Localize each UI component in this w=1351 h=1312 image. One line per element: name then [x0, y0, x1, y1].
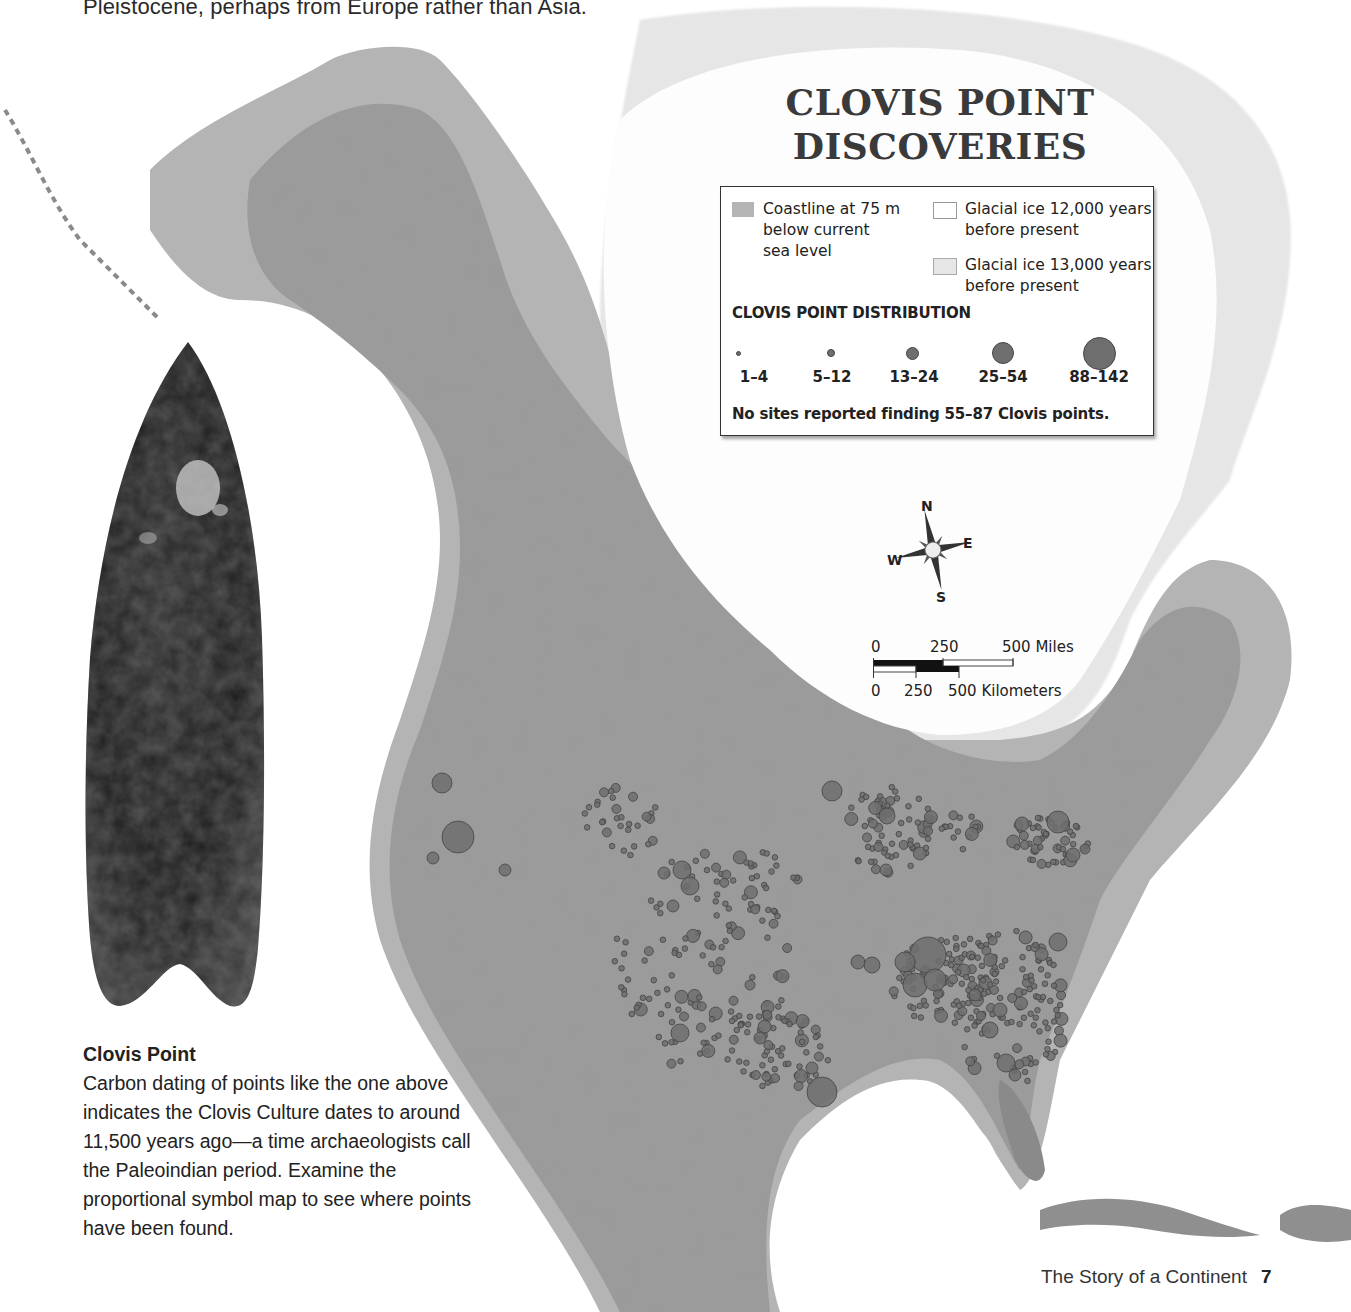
clovis-site-symbol	[798, 1030, 804, 1036]
symbol-dot-13-24	[906, 347, 919, 360]
clovis-site-symbol	[726, 923, 732, 929]
clovis-site-symbol	[716, 1033, 722, 1039]
distribution-note: No sites reported finding 55–87 Clovis p…	[732, 405, 1109, 423]
clovis-site-symbol	[696, 1023, 705, 1032]
clovis-site-symbol	[658, 867, 670, 879]
clovis-site-symbol	[787, 1021, 793, 1027]
clovis-site-symbol	[934, 998, 940, 1004]
clovis-site-symbol	[961, 942, 967, 948]
clovis-site-symbol	[744, 1060, 750, 1066]
clovis-site-symbol	[709, 961, 715, 967]
clovis-site-symbol	[1051, 1019, 1057, 1025]
clovis-site-symbol	[748, 861, 754, 867]
intro-text: Pleistocene, perhaps from Europe rather …	[83, 0, 587, 20]
clovis-site-symbol	[669, 973, 675, 979]
page-footer: The Story of a Continent7	[1041, 1266, 1272, 1288]
clovis-site-symbol	[1028, 1011, 1034, 1017]
clovis-site-symbol	[993, 1003, 1007, 1017]
clovis-site-symbol	[885, 853, 891, 859]
clovis-site-symbol	[738, 1022, 744, 1028]
clovis-site-symbol	[1029, 978, 1035, 984]
clovis-site-symbol	[729, 1048, 735, 1054]
clovis-site-symbol	[610, 795, 616, 801]
clovis-site-symbol	[966, 1057, 975, 1066]
clovis-site-symbol	[700, 953, 706, 959]
clovis-site-symbol	[880, 864, 892, 876]
clovis-site-symbol	[736, 1059, 742, 1065]
compass-e-label: E	[963, 535, 973, 551]
scale-km-0: 0	[871, 682, 881, 700]
clovis-site-symbol	[736, 1013, 742, 1019]
clovis-site-symbol	[609, 843, 615, 849]
range-label-5-12: 5–12	[792, 368, 872, 386]
clovis-site-symbol	[1038, 844, 1044, 850]
clovis-site-symbol	[619, 984, 625, 990]
clovis-site-symbol	[1049, 933, 1067, 951]
clovis-site-symbol	[669, 1019, 675, 1025]
clovis-site-symbol	[868, 859, 874, 865]
clovis-site-symbol	[1051, 859, 1057, 865]
clovis-site-symbol	[766, 907, 772, 913]
clovis-site-symbol	[1038, 967, 1044, 973]
clovis-site-symbol	[658, 901, 664, 907]
clovis-site-symbol	[635, 823, 641, 829]
clovis-site-symbol	[1015, 1060, 1024, 1069]
clovis-site-symbol	[965, 1000, 971, 1006]
clovis-site-symbol	[722, 870, 731, 879]
clovis-site-symbol	[658, 1011, 664, 1017]
clovis-site-symbol	[1014, 928, 1020, 934]
compass-w-label: W	[887, 552, 902, 568]
clovis-site-symbol	[599, 819, 605, 825]
clovis-site-symbol	[1021, 989, 1027, 995]
clovis-site-symbol	[697, 995, 703, 1001]
clovis-site-symbol	[952, 1020, 958, 1026]
clovis-site-symbol	[791, 875, 797, 881]
clovis-site-symbol	[915, 820, 921, 826]
clovis-site-symbol	[614, 936, 620, 942]
clovis-site-symbol	[908, 842, 914, 848]
clovis-site-symbol	[972, 1023, 978, 1029]
clovis-site-symbol	[1009, 1019, 1015, 1025]
clovis-site-symbol	[1033, 942, 1039, 948]
scale-miles-0: 0	[871, 638, 881, 656]
clovis-site-symbol	[892, 789, 898, 795]
clovis-site-symbol	[856, 858, 862, 864]
clovis-site-symbol	[1043, 831, 1049, 837]
clovis-site-symbol	[1030, 825, 1036, 831]
clovis-site-symbol	[779, 1046, 785, 1052]
clovis-site-symbol	[899, 840, 908, 849]
clovis-site-symbol	[1054, 1007, 1060, 1013]
clovis-site-symbol	[865, 844, 871, 850]
clovis-site-symbol	[665, 1002, 671, 1008]
clovis-site-symbol	[863, 833, 872, 842]
clovis-site-symbol	[1023, 974, 1029, 980]
clovis-site-symbol	[796, 1015, 809, 1028]
clovis-site-symbol	[778, 1053, 784, 1059]
clovis-site-symbol	[1019, 931, 1032, 944]
clovis-site-symbol	[608, 788, 614, 794]
clovis-site-symbol	[764, 1041, 773, 1050]
clovis-site-symbol	[729, 1018, 735, 1024]
clovis-site-symbol	[948, 962, 954, 968]
clovis-site-symbol	[1037, 859, 1046, 868]
clovis-site-symbol	[783, 944, 792, 953]
clovis-site-symbol	[623, 939, 629, 945]
map-legend: Coastline at 75 m below current sea leve…	[720, 186, 1154, 436]
clovis-site-symbol	[664, 987, 670, 993]
compass-s-label: S	[936, 589, 946, 605]
clovis-site-symbol	[879, 808, 895, 824]
clovis-site-symbol	[949, 975, 958, 984]
clovis-site-symbol	[763, 885, 769, 891]
clovis-site-symbol	[582, 811, 588, 817]
clovis-site-symbol	[671, 1024, 689, 1042]
clovis-site-symbol	[896, 831, 902, 837]
clovis-site-symbol	[786, 1061, 792, 1067]
clovis-site-symbol	[667, 1059, 676, 1068]
clovis-site-symbol	[712, 863, 721, 872]
clovis-site-symbol	[779, 997, 785, 1003]
clovis-site-symbol	[782, 1018, 788, 1024]
range-label-88-142: 88–142	[1059, 368, 1139, 386]
clovis-site-symbol	[776, 970, 789, 983]
clovis-site-symbol	[764, 851, 770, 857]
clovis-site-symbol	[976, 1012, 985, 1021]
